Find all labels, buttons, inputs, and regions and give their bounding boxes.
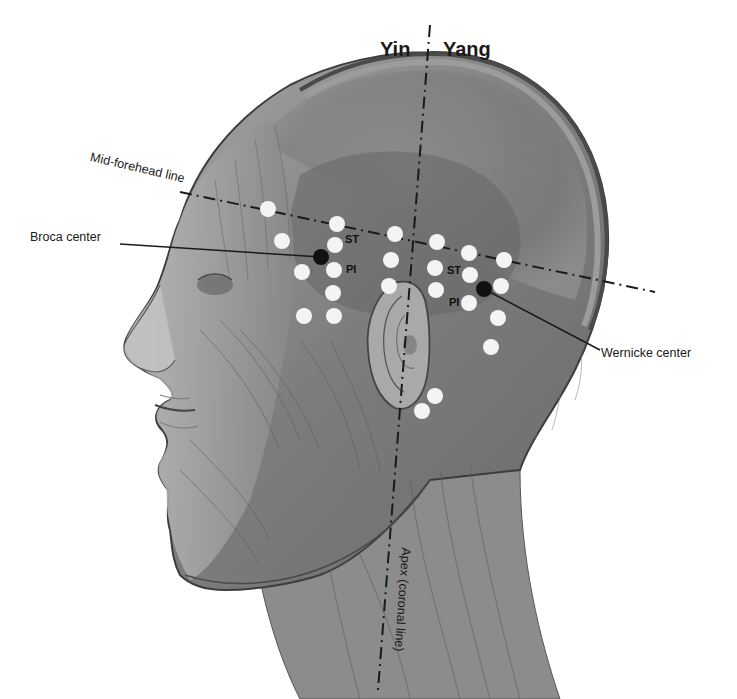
broca-center-point xyxy=(313,249,329,265)
eye xyxy=(197,275,233,295)
scalp-point xyxy=(383,252,399,268)
scalp-point xyxy=(327,237,343,253)
wernicke-center-label: Wernicke center xyxy=(601,346,691,360)
st-label-right: ST xyxy=(447,264,461,276)
scalp-point xyxy=(387,226,403,242)
scalp-point xyxy=(325,285,341,301)
yin-label: Yin xyxy=(380,38,410,61)
head-diagram: Yin Yang Mid-forehead line Broca center … xyxy=(0,0,737,699)
scalp-point xyxy=(326,308,342,324)
pi-label-left: PI xyxy=(346,263,356,275)
yang-label: Yang xyxy=(443,38,491,61)
pi-label-right: PI xyxy=(449,296,459,308)
scalp-point xyxy=(462,267,478,283)
scalp-point xyxy=(461,245,477,261)
scalp-point xyxy=(296,308,312,324)
scalp-point xyxy=(429,234,445,250)
wernicke-center-point xyxy=(476,281,492,297)
scalp-point xyxy=(260,201,276,217)
scalp-point xyxy=(329,216,345,232)
scalp-point xyxy=(490,310,506,326)
scalp-point xyxy=(294,264,310,280)
scalp-point xyxy=(428,282,444,298)
scalp-point xyxy=(483,339,499,355)
broca-center-label: Broca center xyxy=(30,230,101,244)
scalp-point xyxy=(461,295,477,311)
scalp-point xyxy=(274,233,290,249)
scalp-point xyxy=(427,388,443,404)
scalp-point xyxy=(326,262,342,278)
st-label-left: ST xyxy=(345,233,359,245)
scalp-point xyxy=(414,403,430,419)
scalp-point xyxy=(381,278,397,294)
scalp-point xyxy=(427,260,443,276)
scalp-point xyxy=(493,278,509,294)
scalp-point xyxy=(496,252,512,268)
